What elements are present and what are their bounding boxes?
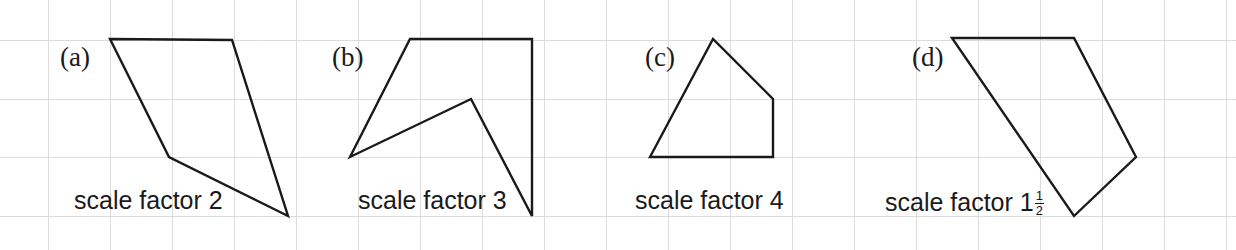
panel-caption-c: scale factor 4 bbox=[635, 188, 784, 213]
panel-caption-d: scale factor 1 1 2 bbox=[885, 188, 1044, 216]
panel-letter-a: (a) bbox=[60, 44, 90, 71]
mixed-fraction-one-half: 1 2 bbox=[1035, 189, 1044, 217]
panel-caption-b: scale factor 3 bbox=[358, 188, 507, 213]
panel-letter-d: (d) bbox=[912, 44, 943, 71]
panel-letter-c: (c) bbox=[645, 44, 675, 71]
panel-caption-a: scale factor 2 bbox=[74, 188, 223, 213]
panel-caption-d-text: scale factor 1 bbox=[885, 190, 1034, 215]
fraction-denominator: 2 bbox=[1035, 203, 1044, 218]
fraction-numerator: 1 bbox=[1035, 189, 1044, 203]
panel-letter-b: (b) bbox=[332, 44, 363, 71]
figure-root: (a) scale factor 2 (b) scale factor 3 (c… bbox=[0, 0, 1236, 250]
